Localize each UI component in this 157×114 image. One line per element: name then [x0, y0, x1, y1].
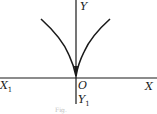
curve-left-branch — [41, 19, 76, 76]
label-y-negative: Y1 — [78, 94, 90, 108]
cusp-diagram: Y X X1 O Y1 Fig. — [0, 0, 157, 114]
curve-right-branch — [76, 19, 110, 76]
label-y-negative-sub: 1 — [85, 100, 89, 108]
label-x-negative-text: X — [0, 79, 8, 92]
label-y-positive: Y — [80, 1, 87, 12]
label-x-negative: X1 — [0, 80, 12, 94]
label-x-positive: X — [145, 81, 153, 92]
figure-caption: Fig. — [55, 107, 67, 113]
label-origin: O — [78, 80, 87, 91]
label-x-negative-sub: 1 — [8, 86, 12, 94]
